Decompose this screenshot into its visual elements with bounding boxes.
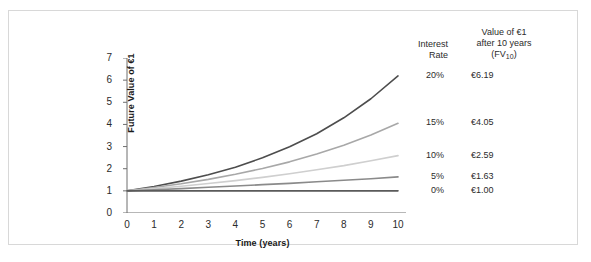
series-label-10pct: 10% — [410, 150, 444, 160]
y-tick-label: 3 — [92, 142, 112, 152]
x-tick-label: 6 — [280, 219, 300, 230]
future-value-cell: €4.05 — [471, 117, 531, 127]
y-tick-label: 0 — [92, 208, 112, 218]
legend-header-interest-rate: Interest Rate — [394, 39, 448, 61]
x-tick-label: 9 — [361, 219, 381, 230]
legend-header-rate-line2: Rate — [429, 50, 448, 60]
legend-header-value-line1: Value of €1 — [482, 27, 527, 37]
x-tick-label: 10 — [388, 219, 408, 230]
series-label-5pct: 5% — [410, 171, 444, 181]
x-tick-label: 0 — [117, 219, 137, 230]
y-tick-label: 2 — [92, 164, 112, 174]
plot-area: Future Value of €1 01234567 012345678910… — [119, 58, 406, 213]
x-tick-label: 8 — [334, 219, 354, 230]
fv-subscript: 10 — [506, 53, 514, 60]
y-tick-label: 4 — [92, 119, 112, 129]
future-value-cell: €1.63 — [471, 171, 531, 181]
x-tick-label: 3 — [198, 219, 218, 230]
x-axis-title: Time (years) — [119, 238, 406, 248]
series-label-15pct: 15% — [410, 117, 444, 127]
future-value-cell: €1.00 — [471, 185, 531, 195]
fv-suffix: ) — [514, 49, 517, 59]
series-curves — [127, 76, 398, 191]
fv-prefix: (FV — [491, 49, 506, 59]
legend-header-rate-line1: Interest — [418, 39, 448, 49]
series-label-20pct: 20% — [410, 70, 444, 80]
future-value-cell: €6.19 — [471, 70, 531, 80]
legend-header-value-line2: after 10 years — [476, 38, 531, 48]
legend-header-future-value: Value of €1 after 10 years (FV10) — [452, 27, 556, 60]
figure-frame: Future Value of €1 01234567 012345678910… — [8, 10, 578, 245]
x-tick-label: 7 — [307, 219, 327, 230]
x-tick-label: 5 — [253, 219, 273, 230]
legend-header-value-line3: (FV10) — [491, 49, 516, 59]
x-tick-label: 4 — [225, 219, 245, 230]
x-tick-label: 1 — [144, 219, 164, 230]
y-tick-label: 6 — [92, 75, 112, 85]
series-label-0pct: 0% — [410, 185, 444, 195]
y-tick-label: 7 — [92, 53, 112, 63]
chart-canvas — [119, 58, 406, 213]
y-tick-label: 1 — [92, 186, 112, 196]
x-tick-label: 2 — [171, 219, 191, 230]
y-tick-label: 5 — [92, 97, 112, 107]
future-value-cell: €2.59 — [471, 150, 531, 160]
y-axis-title: Future Value of €1 — [126, 33, 136, 153]
